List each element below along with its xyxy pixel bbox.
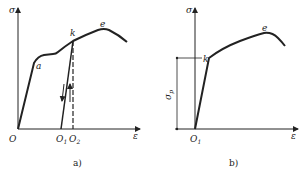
figure-b: σ ε O1 k e σp b)	[163, 5, 298, 168]
x-axis-label-b: ε	[291, 131, 296, 141]
point-e-label-a: e	[100, 19, 105, 29]
point-k-label-a: k	[70, 28, 75, 38]
sigma-p-label: σp	[163, 90, 175, 100]
o1-label: O1	[56, 134, 67, 145]
x-axis-label-a: ε	[133, 131, 138, 141]
y-axis-label-a: σ	[9, 5, 16, 15]
figure-a: σ ε O a k e O1 O2 a)	[9, 5, 140, 168]
origin-label-b: O1	[190, 134, 201, 145]
stress-strain-curve-b	[195, 33, 285, 129]
caption-b: b)	[229, 158, 238, 168]
point-e-label-b: e	[262, 23, 267, 33]
origin-label-a: O	[9, 134, 17, 144]
unloading-line	[61, 41, 73, 129]
o2-label: O2	[69, 134, 80, 145]
sigma-p-bottom-tick	[176, 128, 178, 130]
caption-a: a)	[73, 158, 82, 168]
unload-arrow-icon	[62, 84, 64, 101]
stress-strain-diagrams: σ ε O a k e O1 O2 a) σ ε O1 k e σp b)	[0, 0, 306, 181]
point-k-label-b: k	[203, 54, 208, 64]
y-axis-label-b: σ	[186, 5, 193, 15]
sigma-p-top-tick	[176, 57, 178, 59]
point-a-label: a	[36, 61, 41, 71]
